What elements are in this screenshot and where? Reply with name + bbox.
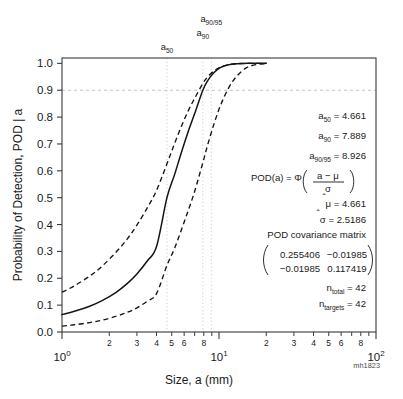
y-tick-label: 0.3 xyxy=(37,245,53,257)
formula-denominator: σ xyxy=(325,183,331,194)
cov-cell: −0.01985 xyxy=(280,263,320,274)
lower-confidence-bound xyxy=(62,64,266,326)
y-tick-label: 1.0 xyxy=(37,57,53,69)
vline-label-a90: a90 xyxy=(197,27,210,40)
x-minor-label: 2 xyxy=(107,338,112,348)
annotation-n-total: ntotal = 42 xyxy=(327,282,366,295)
x-minor-label: 5 xyxy=(326,338,331,348)
annotation-n-targets: ntargets = 42 xyxy=(319,298,366,312)
upper-confidence-bound xyxy=(62,63,266,292)
x-decade-label: 100 xyxy=(53,349,71,363)
cov-paren-right xyxy=(368,245,373,275)
x-minor-label: 3 xyxy=(135,338,140,348)
x-axis-title: Size, a (mm) xyxy=(165,373,233,387)
cov-cell: 0.117419 xyxy=(327,263,366,274)
pod-curve xyxy=(62,63,266,314)
y-tick-label: 0.5 xyxy=(37,192,53,204)
x-minor-label: 6 xyxy=(339,338,344,348)
vline-label-a50: a50 xyxy=(161,41,174,54)
x-decade-label: 101 xyxy=(210,349,228,363)
annotation-sigma-hat: σ = 2.5186 xyxy=(320,214,366,225)
annotation-cov-title: POD covariance matrix xyxy=(267,229,366,240)
x-minor-label: 8 xyxy=(358,338,363,348)
x-minor-label: 6 xyxy=(182,338,187,348)
x-minor-label: 4 xyxy=(154,338,159,348)
formula-numerator: a − μ xyxy=(317,170,339,181)
y-tick-label: 0.1 xyxy=(37,299,53,311)
y-tick-label: 0.9 xyxy=(37,84,53,96)
annotation-pod-formula-lhs: POD(a) = Φ xyxy=(251,172,302,183)
x-minor-label: 5 xyxy=(169,338,174,348)
cov-cell: −0.01985 xyxy=(327,249,367,260)
cov-cell: 0.255406 xyxy=(280,249,320,260)
vline-label-a90_95: a90/95 xyxy=(200,13,222,26)
annotation-a90-95: a90/95 = 8.926 xyxy=(309,150,366,163)
annotation-a90: a90 = 7.889 xyxy=(318,130,366,143)
y-tick-label: 0.7 xyxy=(37,138,53,150)
pod-chart: 0.00.10.20.30.40.50.60.70.80.91.02345682… xyxy=(0,0,403,399)
annotation-mu-hat: μ = 4.661 xyxy=(326,198,366,209)
pod-chart-svg: 0.00.10.20.30.40.50.60.70.80.91.02345682… xyxy=(0,0,403,399)
formula-paren-left xyxy=(303,170,307,193)
annotation-a50: a50 = 4.661 xyxy=(318,110,366,123)
x-minor-label: 4 xyxy=(311,338,316,348)
x-minor-label: 8 xyxy=(201,338,206,348)
y-tick-label: 0.0 xyxy=(37,326,53,338)
x-minor-label: 3 xyxy=(292,338,297,348)
x-minor-label: 2 xyxy=(264,338,269,348)
y-tick-label: 0.8 xyxy=(37,111,53,123)
y-axis-title: Probability of Detection, POD | a xyxy=(11,108,25,281)
y-tick-label: 0.6 xyxy=(37,165,53,177)
watermark: mh1823 xyxy=(353,361,380,370)
cov-paren-left xyxy=(264,245,269,275)
y-tick-label: 0.2 xyxy=(37,272,53,284)
formula-paren-right xyxy=(350,170,354,193)
y-tick-label: 0.4 xyxy=(37,219,54,231)
